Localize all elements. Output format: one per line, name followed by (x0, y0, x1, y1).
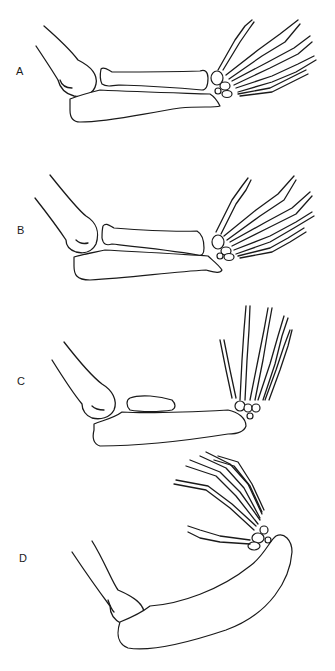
panel-label-d: D (19, 552, 27, 564)
panel-b-drawing (35, 175, 314, 280)
panel-c-drawing (52, 306, 292, 446)
panel-label-a: A (16, 65, 23, 77)
bone-illustration (0, 0, 335, 671)
panel-d-drawing (72, 452, 292, 649)
panel-label-c: C (17, 375, 25, 387)
panel-a-drawing (36, 20, 316, 122)
panel-label-b: B (17, 224, 24, 236)
figure: A B C D (0, 0, 335, 671)
